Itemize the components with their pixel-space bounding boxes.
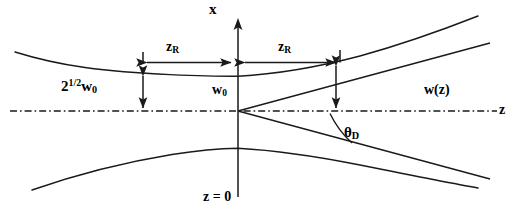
waist-at-rayleigh-base: 2 (61, 78, 69, 94)
waist-at-rayleigh-subscript: 0 (92, 84, 97, 95)
upper-hyperbola-curve (15, 16, 478, 76)
divergence-angle-label: θD (344, 125, 359, 141)
waist-radius-subscript: 0 (222, 88, 227, 98)
origin-label: z = 0 (203, 190, 231, 204)
waist-at-rayleigh-exponent: 1/2 (69, 77, 82, 88)
waist-radius-label: w0 (212, 83, 227, 99)
divergence-angle-symbol: θ (344, 124, 352, 140)
lower-hyperbola-curve (32, 148, 478, 190)
gaussian-beam-diagram: x zR zR 21/2w0 w0 w(z) z θD z = 0 (0, 0, 518, 219)
rayleigh-range-left-label: zR (166, 40, 179, 56)
diagram-canvas (0, 0, 518, 219)
rayleigh-right-subscript: R (284, 45, 291, 55)
z-axis-label: z (499, 103, 505, 117)
rayleigh-range-right-label: zR (278, 40, 291, 56)
rayleigh-left-subscript: R (172, 45, 179, 55)
waist-at-rayleigh-variable: w (81, 78, 92, 94)
upper-asymptote-ray (238, 43, 490, 111)
divergence-angle-subscript: D (352, 130, 359, 141)
lower-asymptote-ray (238, 111, 490, 179)
x-axis-label: x (209, 2, 217, 17)
waist-radius-symbol: w (212, 82, 222, 97)
waist-at-rayleigh-label: 21/2w0 (61, 78, 97, 95)
beam-radius-label: w(z) (424, 83, 450, 97)
